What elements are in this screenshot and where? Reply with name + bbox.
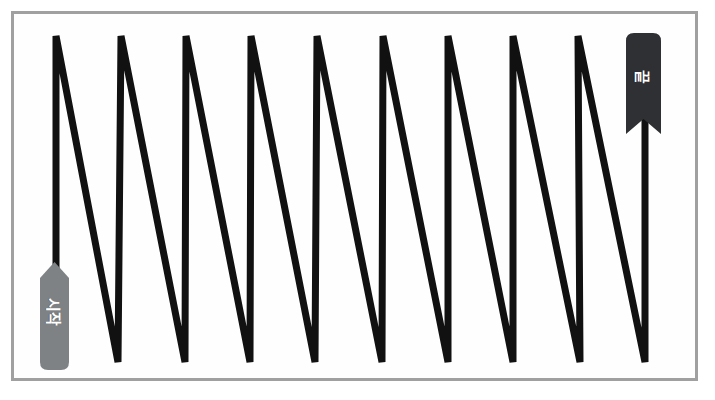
serpentine-zigzag-path xyxy=(56,36,645,362)
diagram-canvas: 시작 끝 xyxy=(0,0,715,400)
start-label: 시작 xyxy=(44,298,65,327)
end-label: 끝 xyxy=(633,70,654,85)
zigzag-diagram xyxy=(0,0,715,400)
